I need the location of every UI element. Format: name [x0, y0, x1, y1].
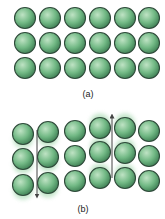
atom-sphere: [15, 58, 36, 79]
atom-sphere: [115, 33, 136, 54]
atom-sphere: [115, 168, 136, 189]
atom-sphere: [40, 8, 61, 29]
atom-sphere: [115, 58, 136, 79]
lattice-vibration-figure: [0, 0, 165, 219]
atom-sphere: [115, 143, 136, 164]
atom-sphere: [13, 175, 34, 196]
atom-sphere: [65, 58, 86, 79]
atom-sphere: [40, 33, 61, 54]
atom-sphere: [65, 8, 86, 29]
atom-sphere: [38, 147, 59, 168]
atom-sphere: [139, 121, 160, 142]
atom-sphere: [139, 58, 160, 79]
atom-sphere: [65, 171, 86, 192]
atom-sphere: [115, 8, 136, 29]
atom-sphere: [139, 146, 160, 167]
atom-sphere: [65, 146, 86, 167]
atom-sphere: [90, 168, 111, 189]
atom-sphere: [90, 8, 111, 29]
atom-sphere: [90, 33, 111, 54]
atom-sphere: [90, 118, 111, 139]
atom-sphere: [13, 124, 34, 145]
atom-sphere: [15, 33, 36, 54]
atom-sphere: [15, 8, 36, 29]
atom-sphere: [40, 58, 61, 79]
panel-b-caption: (b): [78, 205, 89, 214]
panel-a-lattice-at-rest: [15, 8, 160, 79]
atom-sphere: [65, 33, 86, 54]
atom-sphere: [139, 171, 160, 192]
atom-sphere: [38, 122, 59, 143]
panel-a-caption: (a): [83, 90, 94, 99]
atom-sphere: [90, 58, 111, 79]
atom-sphere: [38, 173, 59, 194]
panel-b-lattice-wave: [13, 114, 160, 200]
atom-sphere: [115, 118, 136, 139]
atom-sphere: [90, 142, 111, 163]
atom-sphere: [65, 121, 86, 142]
atom-sphere: [13, 149, 34, 170]
atom-sphere: [139, 8, 160, 29]
atom-sphere: [139, 33, 160, 54]
